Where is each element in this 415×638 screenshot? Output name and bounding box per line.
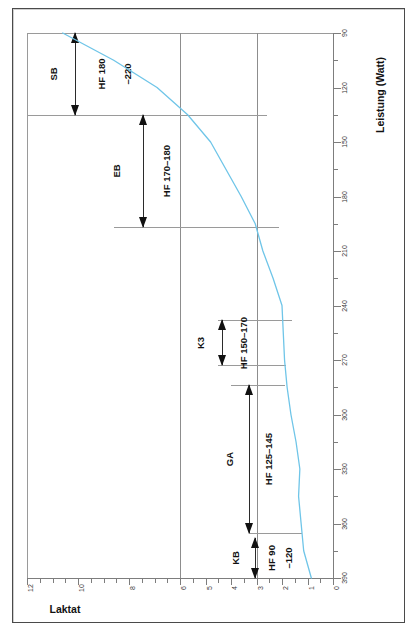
leistung-tick-345 bbox=[334, 115, 338, 116]
arrow-head-down-sb bbox=[71, 105, 79, 116]
zone-hf-label-sb: HF 180 bbox=[96, 58, 107, 89]
leistung-tick-label-240: 240 bbox=[341, 300, 348, 312]
zone-hf-label2-sb: –220 bbox=[121, 63, 132, 84]
laktat-tick-0.5 bbox=[320, 579, 321, 583]
leistung-tick-label-120: 360 bbox=[341, 518, 348, 530]
leistung-tick-135 bbox=[334, 496, 338, 497]
zone-line-k3-top bbox=[218, 320, 292, 321]
zone-arrow-sb bbox=[75, 33, 76, 115]
laktat-tick-11.5 bbox=[40, 579, 41, 583]
leistung-tick-label-390: 90 bbox=[341, 29, 348, 37]
laktat-tick-label-12: 12 bbox=[27, 584, 34, 592]
laktat-tick-4 bbox=[231, 579, 232, 585]
leistung-tick-375 bbox=[334, 60, 338, 61]
leistung-tick-105 bbox=[334, 551, 338, 552]
leistung-tick-label-150: 330 bbox=[341, 463, 348, 475]
arrow-head-down-eb bbox=[139, 217, 147, 228]
zone-hf-label-eb: HF 170–180 bbox=[161, 145, 172, 197]
zone-label-sb: SB bbox=[47, 67, 58, 80]
laktat-tick-label-2: 2 bbox=[282, 586, 289, 590]
leistung-tick-255 bbox=[334, 278, 338, 279]
laktat-axis-title: Laktat bbox=[50, 603, 81, 615]
leistung-tick-label-330: 150 bbox=[341, 136, 348, 148]
leistung-axis-title: Leistung (Watt) bbox=[374, 57, 386, 133]
zone-label-kb: KB bbox=[229, 551, 240, 565]
zone-hf-label-k3: HF 150–170 bbox=[237, 317, 248, 369]
laktat-tick-6.5 bbox=[167, 579, 168, 583]
laktat-tick-label-8: 8 bbox=[129, 586, 136, 590]
laktat-tick-9 bbox=[104, 579, 105, 583]
laktat-tick-10.5 bbox=[65, 579, 66, 583]
laktat-tick-label-10: 10 bbox=[78, 584, 85, 592]
laktat-tick-11 bbox=[53, 579, 54, 583]
zone-arrow-k3 bbox=[222, 320, 223, 365]
chart-page: 3903603303002702402101801501209012108654… bbox=[0, 0, 415, 638]
laktat-tick-7.5 bbox=[142, 579, 143, 583]
laktat-tick-label-1: 1 bbox=[308, 586, 315, 590]
laktat-tick-4.5 bbox=[218, 579, 219, 583]
laktat-tick-2.5 bbox=[269, 579, 270, 583]
laktat-tick-8 bbox=[129, 579, 130, 585]
laktat-tick-8.5 bbox=[116, 579, 117, 583]
zone-arrow-eb bbox=[143, 115, 144, 228]
zone-label-ga: GA bbox=[223, 452, 234, 466]
laktat-tick-2 bbox=[282, 579, 283, 585]
arrow-head-down-ga bbox=[245, 523, 253, 534]
leistung-tick-225 bbox=[334, 333, 338, 334]
leistung-tick-285 bbox=[334, 224, 338, 225]
arrow-head-up-sb bbox=[71, 32, 79, 43]
laktat-tick-9.5 bbox=[91, 579, 92, 583]
arrow-head-down-k3 bbox=[218, 355, 226, 366]
laktat-tick-1.5 bbox=[295, 579, 296, 583]
arrow-head-down-kb bbox=[251, 568, 259, 579]
leistung-tick-label-270: 210 bbox=[341, 245, 348, 257]
zone-hf-label-kb: HF 90 bbox=[265, 545, 276, 571]
leistung-tick-195 bbox=[334, 387, 338, 388]
laktat-tick-6 bbox=[180, 579, 181, 585]
zone-hf-label2-kb: –120 bbox=[283, 547, 294, 568]
laktat-tick-label-4: 4 bbox=[231, 586, 238, 590]
laktat-tick-label-0: 0 bbox=[333, 586, 340, 590]
leistung-tick-label-180: 300 bbox=[341, 409, 348, 421]
laktat-tick-label-5: 5 bbox=[206, 586, 213, 590]
leistung-tick-label-90: 390 bbox=[341, 572, 348, 584]
leistung-tick-label-210: 270 bbox=[341, 354, 348, 366]
laktat-tick-3.5 bbox=[244, 579, 245, 583]
leistung-tick-165 bbox=[334, 442, 338, 443]
laktat-tick-5 bbox=[206, 579, 207, 585]
zone-arrow-kb bbox=[255, 538, 256, 578]
laktat-tick-label-3: 3 bbox=[257, 586, 264, 590]
laktat-tick-label-6: 6 bbox=[180, 586, 187, 590]
zone-line-k3-bottom bbox=[218, 365, 286, 366]
laktat-tick-3 bbox=[257, 579, 258, 585]
arrow-head-up-ga bbox=[245, 384, 253, 395]
arrow-head-up-kb bbox=[251, 537, 259, 548]
zone-line-ga-kb bbox=[249, 533, 303, 534]
laktat-tick-1 bbox=[308, 579, 309, 585]
laktat-tick-7 bbox=[155, 579, 156, 583]
zone-arrow-ga bbox=[249, 385, 250, 532]
zone-line-ga-top bbox=[231, 385, 285, 386]
zone-hf-label-ga: HF 125–145 bbox=[263, 433, 274, 485]
arrow-head-up-eb bbox=[139, 114, 147, 125]
laktat-tick-0 bbox=[333, 579, 334, 585]
leistung-tick-label-300: 180 bbox=[341, 191, 348, 203]
zone-label-k3: K3 bbox=[195, 337, 206, 349]
arrow-head-up-k3 bbox=[218, 319, 226, 330]
laktat-tick-5.5 bbox=[193, 579, 194, 583]
zone-label-eb: EB bbox=[111, 164, 122, 177]
leistung-tick-315 bbox=[334, 169, 338, 170]
leistung-tick-label-360: 120 bbox=[341, 82, 348, 94]
